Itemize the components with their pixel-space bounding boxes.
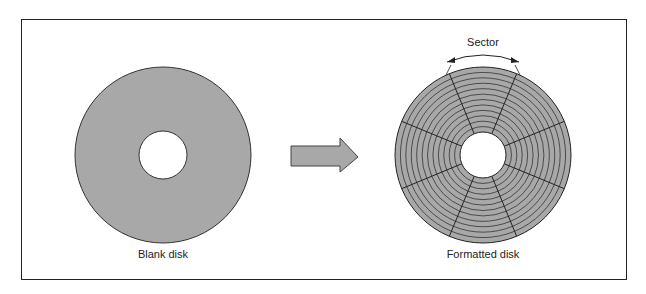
blank-disk-label: Blank disk <box>113 248 213 260</box>
formatted-disk-label: Formatted disk <box>423 248 543 260</box>
formatted-disk <box>395 67 571 243</box>
disk-diagram <box>0 0 646 294</box>
arrow-right-icon <box>291 138 358 172</box>
blank-disk <box>75 67 251 243</box>
sector-label: Sector <box>463 36 503 48</box>
